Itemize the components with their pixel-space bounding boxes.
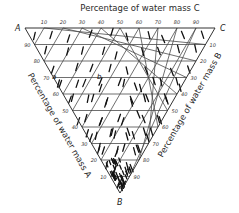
grid-line — [35, 28, 45, 45]
vertex-label-c: C — [220, 24, 226, 33]
tick-label-top: 80 — [174, 19, 180, 25]
hatch-mark — [181, 31, 184, 38]
hatch-mark — [115, 52, 117, 59]
hatch-mark — [144, 94, 146, 101]
hatch-mark — [109, 161, 111, 165]
hatch-mark — [92, 94, 94, 101]
hatch-mark — [34, 32, 36, 39]
ternary-diagram: Percentage of water mass C A B C 1020304… — [0, 0, 239, 213]
hatch-mark — [143, 128, 145, 135]
tick-label-top: 50 — [117, 19, 123, 25]
hatch-mark — [178, 45, 180, 52]
tick-label-right: 80 — [143, 157, 149, 163]
tick-label-top: 90 — [193, 19, 199, 25]
hatch-mark — [83, 79, 86, 86]
hatch-mark — [99, 84, 101, 91]
tick-label-left: 50 — [62, 108, 68, 114]
tick-label-right: 30 — [191, 75, 197, 81]
hatch-mark — [126, 133, 128, 140]
hatch-mark — [67, 35, 69, 42]
axis-title-a: Percentage of water mass A — [26, 71, 94, 179]
tick-label-right: 70 — [153, 141, 159, 147]
hatch-mark — [90, 64, 93, 71]
tick-label-right: 40 — [181, 91, 187, 97]
hatch-mark — [67, 48, 69, 55]
hatch-mark — [114, 131, 116, 138]
hatch-mark — [126, 67, 128, 74]
tick-label-left: 70 — [43, 75, 49, 81]
hatch-mark — [195, 45, 197, 52]
tick-label-right: 10 — [210, 42, 216, 48]
hatch-marks — [34, 28, 204, 190]
hatch-mark — [95, 132, 97, 139]
tick-label-left: 60 — [53, 91, 59, 97]
tick-label-left: 10 — [100, 174, 106, 180]
vertex-label-a: A — [14, 24, 20, 33]
tick-label-right: 50 — [172, 108, 178, 114]
hatch-mark — [116, 172, 118, 176]
hatch-mark — [69, 96, 72, 103]
hatch-mark — [127, 128, 129, 135]
hatch-mark — [134, 148, 136, 155]
tick-label-left: 40 — [72, 124, 78, 130]
hatch-mark — [146, 94, 149, 101]
tick-label-left: 30 — [81, 141, 87, 147]
hatch-mark — [82, 47, 84, 54]
hatch-mark — [103, 47, 105, 54]
tick-label-top: 60 — [136, 19, 142, 25]
tick-label-top: 70 — [155, 19, 161, 25]
hatch-mark — [148, 32, 150, 39]
hatch-mark — [76, 80, 78, 87]
hatch-mark — [201, 31, 203, 38]
hatch-mark — [118, 78, 121, 85]
hatch-mark — [140, 84, 142, 91]
axis-title-c: Percentage of water mass C — [80, 3, 199, 13]
hatch-mark — [71, 94, 73, 101]
hatch-mark — [123, 79, 125, 86]
hatch-mark — [50, 31, 52, 38]
tick-label-top: 10 — [41, 19, 47, 25]
hatch-mark — [134, 83, 137, 90]
tick-label-right: 90 — [134, 174, 140, 180]
point-label-b: b — [97, 73, 102, 81]
point-label-a: a — [52, 73, 56, 81]
hatch-mark — [176, 78, 178, 85]
tick-label-top: 40 — [98, 19, 104, 25]
tick-label-top: 20 — [60, 19, 66, 25]
hatch-mark — [117, 177, 119, 181]
tick-label-left: 90 — [24, 42, 30, 48]
tick-label-right: 20 — [200, 58, 206, 64]
tick-label-left: 20 — [91, 157, 97, 163]
hatch-mark — [111, 28, 113, 35]
hatch-mark — [99, 143, 101, 150]
hatch-mark — [45, 46, 47, 53]
grid-line — [73, 28, 121, 111]
hatch-mark — [128, 169, 130, 173]
tick-label-top: 30 — [79, 19, 85, 25]
hatch-mark — [113, 165, 115, 169]
hatch-mark — [125, 175, 127, 179]
hatch-mark — [162, 35, 165, 42]
hatch-mark — [151, 128, 153, 135]
hatch-mark — [137, 111, 140, 118]
hatch-mark — [123, 144, 125, 151]
hatch-mark — [102, 147, 104, 154]
tick-label-left: 80 — [34, 58, 40, 64]
hatch-mark — [89, 30, 92, 37]
vertex-label-b: B — [117, 198, 123, 207]
tick-label-right: 60 — [162, 124, 168, 130]
hatch-mark — [87, 95, 89, 102]
hatch-mark — [158, 47, 161, 54]
triangular-grid — [35, 28, 206, 177]
hatch-mark — [122, 171, 124, 175]
tick-labels-top: 102030405060708090 — [41, 19, 199, 25]
hatch-mark — [120, 165, 122, 169]
hatch-mark — [118, 114, 121, 121]
hatch-mark — [109, 64, 111, 71]
